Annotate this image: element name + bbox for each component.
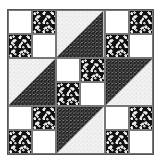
quilt-block bbox=[7, 9, 154, 155]
dark-floral-square bbox=[8, 130, 32, 154]
four-patch-bottom-right bbox=[105, 106, 153, 154]
dark-floral-square bbox=[8, 34, 32, 58]
half-square-triangle-middle-left bbox=[8, 58, 56, 106]
white-square bbox=[129, 130, 153, 154]
four-patch-center bbox=[56, 58, 104, 106]
dark-floral-square bbox=[56, 82, 80, 106]
four-patch-bottom-left bbox=[8, 106, 56, 154]
dark-floral-square bbox=[80, 58, 104, 82]
half-square-triangle-top-center bbox=[56, 10, 104, 58]
dark-floral-square bbox=[105, 34, 129, 58]
half-square-triangle-bottom-center bbox=[56, 106, 104, 154]
dark-floral-square bbox=[32, 106, 56, 130]
white-square bbox=[32, 34, 56, 58]
four-patch-top-left bbox=[8, 10, 56, 58]
dark-floral-square bbox=[105, 130, 129, 154]
four-patch-top-right bbox=[105, 10, 153, 58]
white-square bbox=[56, 58, 80, 82]
dark-floral-square bbox=[129, 10, 153, 34]
white-square bbox=[80, 82, 104, 106]
white-square bbox=[105, 106, 129, 130]
dark-floral-square bbox=[129, 106, 153, 130]
half-square-triangle-middle-right bbox=[105, 58, 153, 106]
dark-floral-square bbox=[32, 10, 56, 34]
white-square bbox=[8, 10, 32, 34]
white-square bbox=[8, 106, 32, 130]
white-square bbox=[129, 34, 153, 58]
white-square bbox=[32, 130, 56, 154]
white-square bbox=[105, 10, 129, 34]
